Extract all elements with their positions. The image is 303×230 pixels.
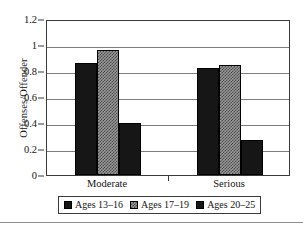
chart-legend: Ages 13–16Ages 17–19Ages 20–25 [58, 196, 261, 214]
y-tick-label: 1 [32, 41, 37, 52]
legend-item[interactable]: Ages 13–16 [64, 199, 123, 210]
y-tick-mark [38, 150, 44, 151]
y-tick-mark [38, 176, 44, 177]
bar-group [197, 21, 263, 175]
y-tick-label: 0.8 [24, 67, 37, 78]
x-tick-label: Moderate [87, 178, 127, 189]
bars-layer [47, 21, 289, 175]
legend-item[interactable]: Ages 17–19 [130, 199, 189, 210]
bar[interactable] [197, 68, 219, 175]
y-tick-mark [38, 98, 44, 99]
plot-area [46, 20, 290, 176]
y-tick-label: 0.2 [24, 145, 37, 156]
y-tick-label: 0.6 [24, 93, 37, 104]
bar[interactable] [97, 50, 119, 175]
x-tick-mark [168, 176, 169, 181]
y-tick-mark [38, 46, 44, 47]
legend-label: Ages 13–16 [75, 199, 123, 210]
y-tick-mark [38, 124, 44, 125]
x-tick-label: Serious [213, 178, 245, 189]
y-tick-mark [38, 20, 44, 21]
x-axis-labels: ModerateSerious [46, 178, 290, 196]
bar-group [75, 21, 141, 175]
y-tick-label: 1.2 [24, 15, 37, 26]
legend-swatch-icon [64, 201, 72, 209]
y-tick-label: 0.4 [24, 119, 37, 130]
y-tick-label: 0 [32, 171, 37, 182]
bar[interactable] [241, 140, 263, 175]
bar[interactable] [75, 63, 97, 175]
legend-label: Ages 20–25 [207, 199, 255, 210]
bar[interactable] [219, 65, 241, 176]
legend-swatch-icon [130, 201, 138, 209]
bar[interactable] [119, 123, 141, 175]
legend-swatch-icon [196, 201, 204, 209]
footer-divider [0, 222, 303, 223]
legend-label: Ages 17–19 [141, 199, 189, 210]
chart-figure: Offenses/Offender 00.20.40.60.811.2 Mode… [0, 0, 303, 230]
y-axis-ticks: 00.20.40.60.811.2 [0, 20, 44, 176]
y-tick-mark [38, 72, 44, 73]
legend-item[interactable]: Ages 20–25 [196, 199, 255, 210]
